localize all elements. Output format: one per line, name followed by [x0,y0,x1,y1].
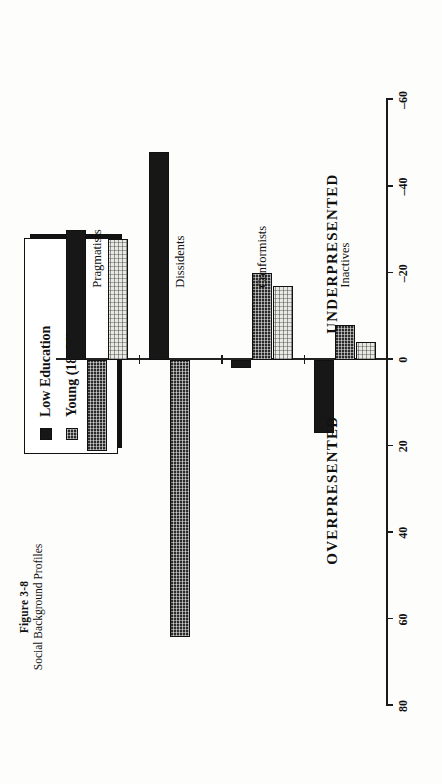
figure-canvas: Figure 3-8 Social Background Profiles Lo… [0,0,442,784]
axis-tick-label: 20 [396,440,411,452]
axis-tick-label: 60 [396,613,411,625]
legend-item-low-education: Low Education [38,326,54,440]
axis-tick-label: 80 [396,700,411,712]
axis-tick [386,272,393,274]
category-label-dissidents: Dissidents [172,236,187,288]
category-label-pragmatists: Pragmatists [90,229,105,287]
figure-caption: Figure 3-8 Social Background Profiles [18,522,44,692]
axis-tick-label: 40 [396,527,411,539]
bar-pragmatists-low-education [66,230,86,360]
axis-tick [386,185,393,187]
bar-conformists-low-education [231,360,251,369]
axis-tick [386,704,393,706]
axis-tick-label: –20 [396,264,411,282]
category-label-conformists: Conformists [255,226,270,288]
axis-tick-label: 0 [396,357,411,363]
category-label-inactives: Inactives [337,243,352,288]
bar-pragmatists-women [108,239,128,360]
axis-tick-label: –40 [396,178,411,196]
overpresented-annotation: OVERPRESENTED [324,416,341,565]
axis-tick [386,98,393,100]
category-tick [221,355,223,364]
bar-conformists-women [273,286,293,360]
bar-inactives-women [356,342,376,359]
value-axis-line [386,100,388,706]
axis-tick [386,445,393,447]
plot-area: OVERPRESENTED UNDERPRESENTED [56,100,386,706]
figure-number: Figure 3-8 [18,522,30,692]
figure-subtitle: Social Background Profiles [32,522,44,692]
legend-label: Low Education [38,326,54,417]
solid-black-swatch-icon [40,428,52,440]
bar-dissidents-low-education [149,152,169,360]
category-tick [139,355,141,364]
axis-tick [386,618,393,620]
axis-tick [386,531,393,533]
bar-dissidents-young-18-29 [170,360,190,637]
category-tick [386,355,388,364]
axis-tick-label: –60 [396,91,411,109]
category-tick [304,355,306,364]
bar-pragmatists-young-18-29 [87,360,107,451]
